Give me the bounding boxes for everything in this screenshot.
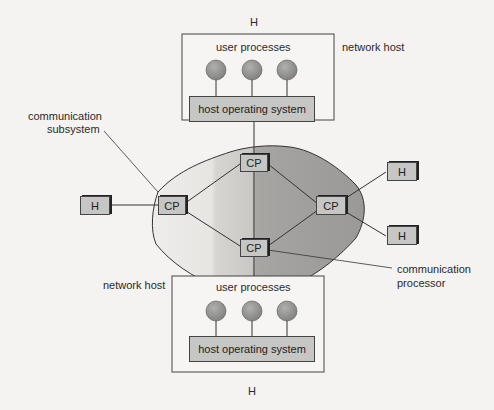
h-right-top-node: H bbox=[387, 162, 417, 181]
subsystem-label-line2: subsystem bbox=[47, 123, 100, 136]
top-host-label: H bbox=[250, 16, 258, 29]
bottom-host-label: H bbox=[248, 385, 256, 398]
bottom-host-os-box: host operating system bbox=[189, 336, 315, 362]
bottom-network-host-caption: network host bbox=[103, 279, 165, 292]
h-right-bottom-node: H bbox=[387, 226, 417, 245]
h-left-node: H bbox=[80, 196, 110, 215]
cp-top-node: CP bbox=[240, 154, 268, 172]
cp-bottom-node: CP bbox=[240, 239, 268, 257]
subsystem-label-line1: communication bbox=[28, 110, 102, 123]
cp-right-node: CP bbox=[316, 196, 346, 215]
cp-left-node: CP bbox=[158, 196, 186, 215]
top-network-host-caption: network host bbox=[342, 41, 404, 54]
top-host-os-box: host operating system bbox=[189, 96, 315, 122]
processor-label-line1: communication bbox=[397, 263, 471, 276]
diagram-canvas: H user processes network host host opera… bbox=[0, 0, 494, 410]
processor-label-line2: processor bbox=[397, 277, 445, 290]
bottom-user-processes-label: user processes bbox=[216, 281, 291, 294]
top-user-processes-label: user processes bbox=[216, 41, 291, 54]
